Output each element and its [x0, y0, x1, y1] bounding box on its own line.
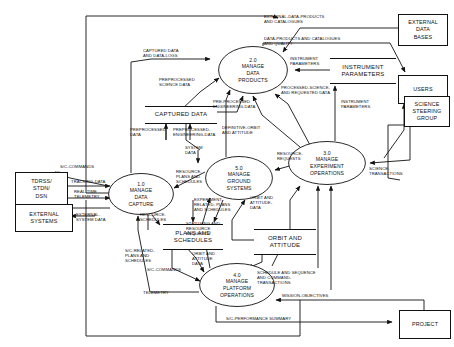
- entity-tdrss-stdn-dsn[interactable]: TDRSS/ STDN/ DSN: [15, 172, 68, 206]
- flow-label-pre-processed-engineering-data: PRE-PROCESSED ENGINEERING-DATA: [213, 99, 273, 109]
- entity-external-systems-label: EXTERNAL SYSTEMS: [29, 211, 59, 225]
- flow-label-tracking-data: TRACKING-DATA: [71, 179, 123, 184]
- process-1-0-label: 1.0 MANAGE DATA CAPTURE: [128, 181, 153, 207]
- store-orbit-and-attitude[interactable]: ORBIT AND ATTITUDE: [254, 229, 316, 255]
- store-captured-data[interactable]: CAPTURED DATA: [145, 106, 217, 124]
- entity-external-data-bases-label: EXTERNAL DATA BASES: [408, 19, 438, 41]
- process-2-0-label: 2.0 MANAGE DATA PRODUCTS: [238, 57, 267, 83]
- flow-label-resource-requests: RESOURCE- REQUESTS: [277, 151, 317, 161]
- store-instrument-parameters[interactable]: INSTRUMENT PARAMETERS: [330, 58, 396, 84]
- flow-label-resource-schedules: RESOURCE- SCHEDULES: [140, 212, 184, 222]
- flow-label-resource-plans-and-schedules: RESOURCE- PLANS AND SCHEDULES: [176, 169, 220, 184]
- flow-label-captured-data-and-data-logs: CAPTURED DATA AND DATA-LOGS: [143, 48, 209, 58]
- flow-label-orbit-and-attitude-data-b: ORBIT AND ATTITUDE DATA: [192, 251, 230, 266]
- flow-label-sc-related-plans-and-schedules: S/C-RELATED- PLANS AND SCHEDULES: [125, 248, 173, 263]
- flow-line-orbit-to-3: [290, 186, 300, 230]
- flow-label-definitive-orbit-and-attitude: DEFINITIVE-ORBIT AND ATTITUDE: [222, 125, 284, 135]
- flow-label-preprocessed-data: PREPROCESSED DATA: [130, 127, 178, 137]
- flow-label-schedule-and-sequence-and-command-transactions: SCHEDULE AND SEQUENCE AND COMMAND- TRANS…: [257, 270, 343, 285]
- entity-external-systems[interactable]: EXTERNAL SYSTEMS: [15, 204, 73, 232]
- entity-project-label: PROJECT: [412, 321, 438, 328]
- entity-project[interactable]: PROJECT: [399, 310, 451, 339]
- entity-users-label: USERS: [413, 86, 432, 93]
- flow-label-data-products-and-catalogues-and-quality: DATA-PRODUCTS AND CATALOGUES AND QUALITY: [264, 36, 380, 46]
- flow-line-mission-objectives: [276, 300, 424, 310]
- store-captured-data-label: CAPTURED DATA: [155, 111, 207, 118]
- entity-science-steering-group[interactable]: SCIENCE STEERING GROUP: [404, 96, 450, 127]
- flow-label-statusing-and-resource-requests: STATUSING AND RESOURCE REQUESTS: [186, 221, 236, 236]
- flow-label-sc-commands: S/C-COMMANDS: [60, 164, 118, 169]
- flow-label-instrument-parameters-b: INSTRUMENT PARAMETERS: [341, 99, 385, 109]
- flow-label-processed-science-and-requested-data: PROCESSED-SCIENCE- AND REQUESTED DATA: [281, 85, 359, 95]
- flow-label-sc-performance-summary: S/C-PERFORMANCE SUMMARY: [226, 316, 336, 321]
- flow-label-instrument-parameters-a: INSTRUMENT PARAMETERS: [290, 56, 338, 66]
- flow-label-system-data: SYSTEM DATA: [185, 145, 219, 155]
- entity-tdrss-label: TDRSS/ STDN/ DSN: [31, 178, 52, 200]
- entity-external-data-bases[interactable]: EXTERNAL DATA BASES: [398, 14, 448, 46]
- flow-label-mission-objectives: MISSION-OBJECTIVES: [282, 293, 352, 298]
- entity-science-steering-group-label: SCIENCE STEERING GROUP: [413, 101, 442, 123]
- flow-label-external-data-products-and-catalogues: EXTERNAL-DATA-PRODUCTS AND CATALOGUES: [264, 14, 360, 24]
- process-5-0-label: 5.0 MANAGE GROUND SYSTEMS: [226, 165, 251, 191]
- flow-label-preprocessed-science-data: PREPROCESSED SCIENCE DATA: [159, 77, 219, 87]
- flow-label-real-time-telemetry: REAL-TIME TELEMETRY: [74, 189, 118, 199]
- flow-label-orbit-and-attitude-data-a: ORBIT AND ATTITUDE- DATA: [250, 195, 288, 210]
- flow-label-external-system-data: EXTERNAL- SYSTEM DATA: [76, 212, 122, 222]
- flow-line-processed-science-requested: [275, 94, 310, 145]
- flow-line-science-transactions-out: [384, 104, 404, 158]
- flow-label-sc-commands-2: S/C-COMMANDS: [147, 267, 205, 272]
- flow-label-telemetry: TELEMETRY: [143, 290, 189, 295]
- process-4-0-label: 4.0 MANAGE PLATFORM OPERATIONS: [220, 272, 254, 298]
- store-instrument-parameters-label: INSTRUMENT PARAMETERS: [342, 64, 385, 78]
- process-2-0[interactable]: 2.0 MANAGE DATA PRODUCTS: [218, 46, 288, 94]
- store-orbit-and-attitude-label: ORBIT AND ATTITUDE: [268, 235, 302, 249]
- flow-label-experiment-related-plans-and-schedules: EXPERIMENT- RELATED- PLANS AND SCHEDULES: [194, 197, 250, 212]
- flow-label-science-transactions: SCIENCE- TRANSACTIONS: [369, 166, 419, 176]
- dfd-canvas: 1.0 MANAGE DATA CAPTURE 2.0 MANAGE DATA …: [0, 0, 454, 347]
- process-3-0[interactable]: 3.0 MANAGE EXPERIMENT OPERATIONS: [288, 141, 366, 185]
